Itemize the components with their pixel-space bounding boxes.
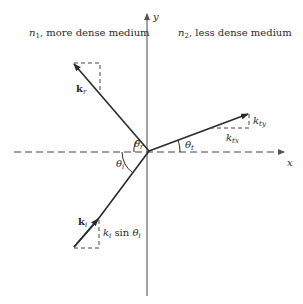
angle-arc-transmitted — [178, 140, 180, 152]
y-axis-label: y — [152, 11, 159, 22]
incident-component-label: ki sin θi — [103, 227, 141, 240]
medium-left-label: n1, more dense medium — [29, 27, 150, 40]
transmitted-x-label: ktx — [226, 132, 239, 145]
angle-reflected-label: θr — [134, 138, 144, 151]
incident-ray — [96, 151, 149, 222]
angle-transmitted-label: θt — [185, 139, 194, 152]
transmitted-vector — [149, 114, 248, 151]
medium-right-label: n2, less dense medium — [178, 27, 292, 40]
refraction-diagram: n1, more dense medium n2, less dense med… — [0, 0, 303, 304]
incident-vector-label: ki — [78, 216, 87, 229]
transmitted-y-label: kty — [253, 115, 267, 128]
reflected-vector-label: kr — [76, 83, 87, 96]
x-axis-label: x — [287, 157, 293, 168]
